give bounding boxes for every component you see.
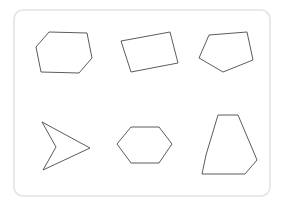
figure-canvas <box>0 0 284 211</box>
shapes-svg <box>0 0 284 211</box>
rounded-panel-border <box>14 10 270 196</box>
